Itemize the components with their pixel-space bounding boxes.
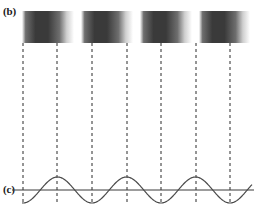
guide-line-group (23, 43, 230, 203)
guides-and-waveform (0, 0, 261, 214)
figure-container: (b) (c) (0, 0, 261, 214)
